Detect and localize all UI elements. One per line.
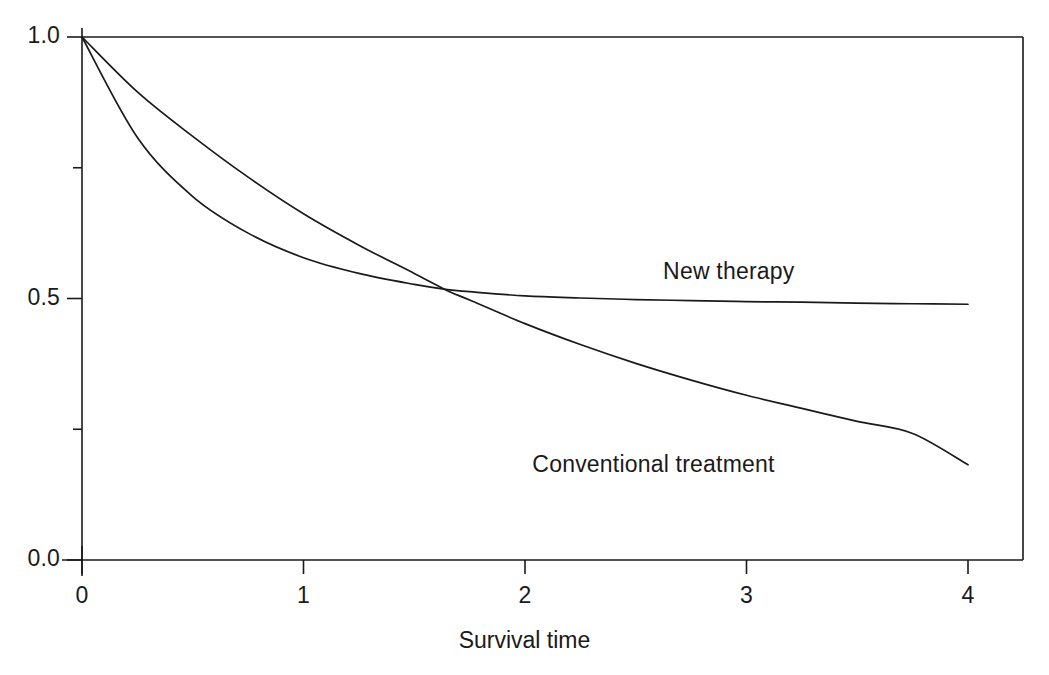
x-tick-label: 0 [42, 582, 122, 609]
x-axis-title: Survival time [0, 627, 1049, 654]
series-line-conventional-treatment [82, 37, 968, 465]
y-tick-label: 1.0 [0, 22, 60, 49]
series-annotation-label: Conventional treatment [532, 451, 774, 478]
series-line-new-therapy [82, 37, 968, 304]
plot-area [0, 0, 1049, 675]
y-tick-label: 0.5 [0, 284, 60, 311]
series-annotation-label: New therapy [663, 258, 794, 285]
x-tick-label: 1 [264, 582, 344, 609]
x-tick-label: 4 [928, 582, 1008, 609]
x-tick-label: 3 [707, 582, 787, 609]
x-tick-label: 2 [485, 582, 565, 609]
y-tick-label: 0.0 [0, 545, 60, 572]
survival-curve-chart: 0.00.51.001234 New therapyConventional t… [0, 0, 1049, 675]
y-axis-ticks [67, 37, 82, 560]
